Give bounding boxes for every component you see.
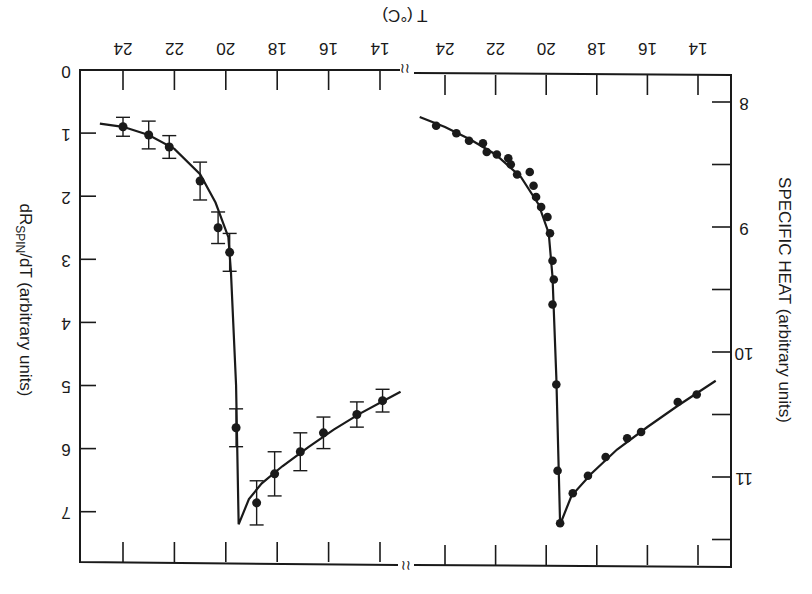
right-top-tick-label: 20 — [537, 39, 556, 58]
right-y-tick-label: 11 — [735, 469, 753, 488]
data-point — [532, 193, 541, 202]
left-axis-title: dRSPIN/dT (arbitrary units) — [13, 203, 35, 396]
right-top-tick-label: 14 — [689, 39, 708, 58]
left-top-tick-label: 24 — [114, 39, 133, 58]
left-y-tick-label: 3 — [61, 251, 70, 270]
left-y-tick-label: 0 — [61, 62, 70, 81]
data-point — [548, 300, 557, 309]
data-point — [506, 160, 515, 169]
top-axis-break-icon: ≀≀ — [400, 61, 410, 77]
data-point — [465, 136, 474, 145]
data-point — [548, 256, 557, 265]
data-point — [525, 168, 534, 177]
left-fit-curve — [100, 124, 401, 525]
data-point — [119, 122, 128, 131]
left-y-tick-label: 6 — [61, 440, 70, 459]
data-point — [556, 519, 565, 528]
data-point — [692, 390, 701, 399]
right-y-tick-label: 10 — [735, 344, 754, 363]
data-point — [537, 203, 546, 212]
left-plot-frame — [80, 70, 400, 565]
data-point — [529, 181, 538, 190]
data-point — [252, 498, 261, 507]
data-point — [513, 170, 522, 179]
left-y-tick-label: 5 — [61, 377, 70, 396]
data-point — [270, 469, 279, 478]
rotated-plot-group: ≀≀≀≀242220181614012345672422201816148910… — [13, 6, 794, 575]
left-top-tick-label: 20 — [216, 39, 235, 58]
data-point — [553, 466, 562, 475]
left-top-tick-label: 16 — [319, 39, 338, 58]
data-point — [214, 223, 223, 232]
data-point — [479, 139, 488, 148]
data-point — [601, 453, 610, 462]
data-point — [543, 213, 552, 222]
right-top-tick-label: 16 — [638, 39, 657, 58]
data-point — [482, 148, 491, 157]
data-point — [352, 410, 361, 419]
data-point — [232, 423, 241, 432]
left-y-tick-label: 7 — [61, 503, 70, 522]
right-y-tick-label: 9 — [739, 219, 748, 238]
data-point — [623, 434, 632, 443]
left-y-tick-label: 2 — [61, 188, 70, 207]
data-point — [319, 428, 328, 437]
left-top-tick-label: 18 — [268, 39, 287, 58]
data-point — [432, 121, 441, 130]
data-point — [296, 447, 305, 456]
data-point — [637, 428, 646, 437]
left-y-tick-label: 4 — [61, 314, 70, 333]
data-point — [584, 471, 593, 480]
rotated-figure: ≀≀≀≀242220181614012345672422201816148910… — [0, 0, 812, 594]
data-point — [552, 380, 561, 389]
data-point — [452, 129, 461, 138]
right-top-tick-label: 22 — [486, 39, 505, 58]
top-axis-title: T (°C) — [382, 6, 427, 25]
data-point — [673, 398, 682, 407]
left-top-tick-label: 14 — [371, 39, 390, 58]
bottom-axis-break-icon: ≀≀ — [401, 558, 411, 574]
right-axis-title: SPECIFIC HEAT (arbitrary units) — [775, 177, 794, 423]
data-point — [144, 130, 153, 139]
data-point — [165, 142, 174, 151]
right-top-tick-label: 18 — [587, 39, 606, 58]
data-point — [549, 275, 558, 284]
left-y-tick-label: 1 — [61, 125, 70, 144]
right-y-tick-label: 8 — [739, 94, 748, 113]
data-point — [225, 248, 234, 257]
chart-canvas: ≀≀≀≀242220181614012345672422201816148910… — [0, 0, 812, 594]
right-fit-curve — [420, 117, 716, 525]
data-point — [568, 489, 577, 498]
data-point — [493, 150, 502, 159]
data-point — [196, 177, 205, 186]
data-point — [378, 396, 387, 405]
data-point — [546, 229, 555, 238]
right-top-tick-label: 24 — [436, 39, 455, 58]
left-top-tick-label: 22 — [165, 39, 184, 58]
